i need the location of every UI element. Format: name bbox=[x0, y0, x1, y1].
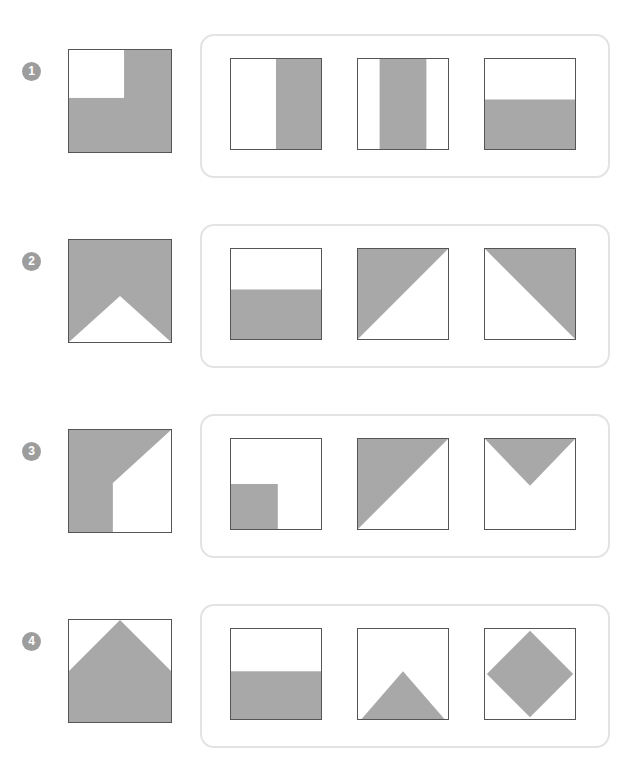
option-choice[interactable] bbox=[230, 248, 322, 340]
option-shape-up-triangle bbox=[358, 629, 448, 719]
question-row: 2 bbox=[0, 190, 637, 380]
option-shape-bottom-band bbox=[485, 59, 575, 149]
options-panel bbox=[200, 224, 610, 368]
option-shape-center-band-vertical bbox=[358, 59, 448, 149]
option-choice[interactable] bbox=[484, 628, 576, 720]
option-shape-diamond bbox=[485, 629, 575, 719]
option-choice[interactable] bbox=[357, 248, 449, 340]
row-number-badge: 1 bbox=[22, 62, 41, 81]
question-row: 3 bbox=[0, 380, 637, 570]
option-choice[interactable] bbox=[230, 438, 322, 530]
prompt-shape-notch-top-left bbox=[69, 50, 171, 152]
row-number-badge: 4 bbox=[22, 632, 41, 651]
option-shape-down-triangle bbox=[485, 439, 575, 529]
option-choice[interactable] bbox=[230, 628, 322, 720]
option-choice[interactable] bbox=[484, 248, 576, 340]
option-shape-bottom-left-rectangle bbox=[231, 439, 321, 529]
option-choice[interactable] bbox=[484, 58, 576, 150]
prompt-figure[interactable] bbox=[68, 619, 172, 723]
options-panel bbox=[200, 414, 610, 558]
row-number-badge: 2 bbox=[22, 252, 41, 271]
option-shape-upper-right-triangle bbox=[485, 249, 575, 339]
options-panel bbox=[200, 604, 610, 748]
option-shape-bottom-half bbox=[231, 629, 321, 719]
worksheet-sheet: 1 bbox=[0, 0, 637, 759]
question-row: 1 bbox=[0, 0, 637, 190]
option-shape-bottom-band bbox=[231, 249, 321, 339]
prompt-figure[interactable] bbox=[68, 49, 172, 153]
prompt-shape-left-band-diagonal bbox=[69, 430, 171, 532]
option-choice[interactable] bbox=[357, 628, 449, 720]
option-choice[interactable] bbox=[357, 58, 449, 150]
prompt-shape-house-pentagon bbox=[69, 620, 171, 722]
option-choice[interactable] bbox=[484, 438, 576, 530]
option-shape-upper-left-triangle bbox=[358, 439, 448, 529]
prompt-shape-white-up-triangle bbox=[69, 240, 171, 342]
prompt-figure[interactable] bbox=[68, 429, 172, 533]
option-shape-right-half bbox=[231, 59, 321, 149]
option-choice[interactable] bbox=[230, 58, 322, 150]
option-choice[interactable] bbox=[357, 438, 449, 530]
option-shape-upper-left-triangle bbox=[358, 249, 448, 339]
options-panel bbox=[200, 34, 610, 178]
question-row: 4 bbox=[0, 570, 637, 759]
row-number-badge: 3 bbox=[22, 442, 41, 461]
prompt-figure[interactable] bbox=[68, 239, 172, 343]
